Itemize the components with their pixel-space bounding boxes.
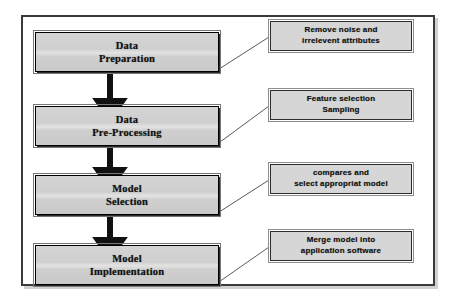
process-label-line2: Pre-Processing — [92, 126, 161, 139]
process-label-line1: Data — [116, 39, 138, 52]
annotation-box-data-pre-processing[interactable]: Feature selection Sampling — [270, 90, 412, 120]
annotation-line1: Feature selection — [307, 94, 375, 105]
process-box-model-implementation[interactable]: Model Implementation — [35, 245, 219, 285]
process-label-line2: Preparation — [99, 52, 155, 65]
process-label-line1: Data — [116, 113, 138, 126]
annotation-line2: irrelevent attributes — [302, 36, 380, 47]
process-label-line2: Selection — [106, 195, 148, 208]
process-box-data-preparation[interactable]: Data Preparation — [35, 32, 219, 72]
annotation-line1: Remove noise and — [304, 25, 377, 36]
annotation-line1: Merge model into — [307, 235, 376, 246]
annotation-line1: compares and — [313, 168, 369, 179]
annotation-line2: select appropriat model — [294, 179, 388, 190]
annotation-box-model-selection[interactable]: compares and select appropriat model — [270, 164, 412, 194]
diagram-canvas: Data Preparation Data Pre-Processing Mod… — [0, 0, 452, 301]
process-label-line1: Model — [112, 252, 142, 265]
annotation-box-data-preparation[interactable]: Remove noise and irrelevent attributes — [270, 21, 412, 51]
process-label-line2: Implementation — [90, 265, 165, 278]
process-box-data-pre-processing[interactable]: Data Pre-Processing — [35, 106, 219, 146]
annotation-line2: Sampling — [322, 105, 359, 116]
annotation-box-model-implementation[interactable]: Merge model into application software — [270, 231, 412, 261]
process-label-line1: Model — [112, 182, 142, 195]
annotation-line2: application software — [301, 246, 381, 257]
process-box-model-selection[interactable]: Model Selection — [35, 175, 219, 215]
